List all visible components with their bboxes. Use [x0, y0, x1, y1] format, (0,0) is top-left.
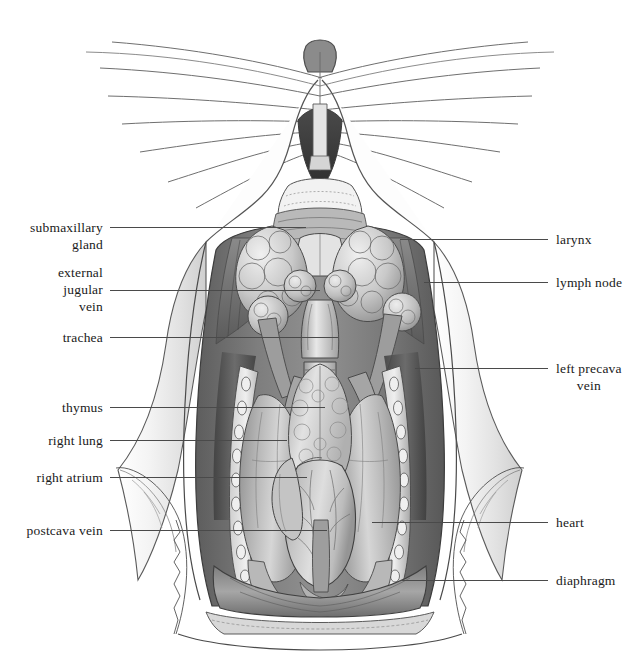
- label-lymph-node: lymph node: [556, 274, 622, 291]
- label-heart: heart: [556, 514, 584, 531]
- leader-line-submaxillary-gland: [110, 227, 306, 228]
- leader-line-trachea: [110, 337, 338, 338]
- label-larynx: larynx: [556, 231, 592, 248]
- label-external-jugular-vein: external jugular vein: [58, 264, 103, 315]
- anatomical-figure: submaxillary glandexternal jugular veint…: [0, 0, 640, 657]
- leader-line-diaphragm: [400, 580, 548, 581]
- label-diaphragm: diaphragm: [556, 572, 616, 589]
- label-left-precava-vein: left precava vein: [556, 360, 622, 394]
- leader-line-right-atrium: [110, 477, 307, 478]
- leader-line-right-lung: [110, 440, 287, 441]
- label-postcava-vein: postcava vein: [27, 522, 103, 539]
- leader-line-larynx: [400, 239, 548, 240]
- leader-line-heart: [372, 522, 548, 523]
- leader-line-left-precava-vein: [415, 368, 548, 369]
- label-right-lung: right lung: [48, 432, 103, 449]
- leader-line-thymus: [110, 407, 325, 408]
- abdominal-wall-lower: [178, 634, 462, 650]
- label-right-atrium: right atrium: [36, 469, 103, 486]
- label-thymus: thymus: [62, 399, 103, 416]
- label-submaxillary-gland: submaxillary gland: [30, 219, 103, 253]
- leader-line-lymph-node: [424, 282, 548, 283]
- label-trachea: trachea: [63, 329, 103, 346]
- leader-line-postcava-vein: [110, 530, 327, 531]
- leader-line-external-jugular-vein: [110, 290, 320, 291]
